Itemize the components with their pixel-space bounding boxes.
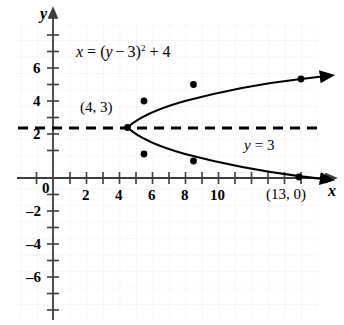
point-vertex <box>124 124 131 131</box>
equation-equals: = <box>87 43 96 60</box>
point-5-4 <box>141 98 148 105</box>
equation-x: x <box>76 43 83 60</box>
y-tick-label-neg4: –4 <box>26 237 41 252</box>
asymptote-label: y= 3 <box>244 138 274 153</box>
equation-y-var: y <box>105 43 112 60</box>
asymptote-label-y: y <box>244 137 251 153</box>
point-13-0 <box>296 174 303 181</box>
y-tick-label-4: 4 <box>33 94 41 109</box>
y-tick-label-2: 2 <box>33 127 41 142</box>
y-axis-label: y <box>40 6 47 22</box>
equation-label: x=(y−3)2+4 <box>76 44 170 60</box>
asymptote-label-value: = 3 <box>255 137 275 153</box>
x-axis-label: x <box>328 183 336 199</box>
vertex-point-label: (4, 3) <box>80 100 113 115</box>
x-tick-label-6: 6 <box>148 188 156 203</box>
grid-lines <box>17 24 318 318</box>
x-tick-label-8: 8 <box>181 188 189 203</box>
equation-exponent: 2 <box>141 43 146 53</box>
origin-tick-label: 0 <box>42 181 50 196</box>
equation-three: 3 <box>128 43 136 60</box>
y-tick-label-6: 6 <box>33 61 41 76</box>
parabola-graph-figure: y x 0 2 4 6 8 10 6 4 2 –2 –4 –6 x=(y−3)2… <box>0 0 344 325</box>
point-13-6 <box>298 76 305 83</box>
x-tick-label-2: 2 <box>82 188 90 203</box>
point-8-5 <box>190 81 197 88</box>
x-tick-label-4: 4 <box>115 188 123 203</box>
equation-minus: − <box>116 43 125 60</box>
y-tick-label-neg2: –2 <box>26 204 41 219</box>
graph-canvas <box>0 0 344 325</box>
y-tick-label-neg6: –6 <box>26 270 41 285</box>
x-tick-label-10: 10 <box>210 188 225 203</box>
point-5-2 <box>141 151 148 158</box>
equation-plus: + <box>149 43 158 60</box>
equation-four: 4 <box>162 43 170 60</box>
x-intercept-point-label: (13, 0) <box>266 187 306 202</box>
point-8-1 <box>190 158 197 165</box>
